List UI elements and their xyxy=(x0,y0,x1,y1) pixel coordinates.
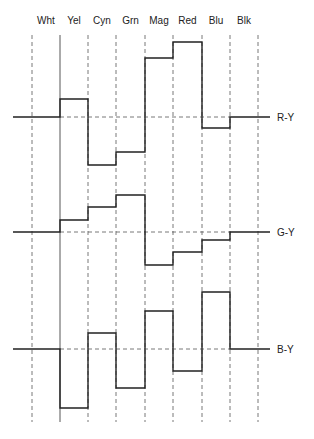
bar-label-yellow: Yel xyxy=(67,15,81,26)
signal-label-b-y: B-Y xyxy=(277,344,294,355)
bar-label-black: Blk xyxy=(237,15,251,26)
bar-label-blue: Blu xyxy=(209,15,223,26)
color-difference-waveform-diagram: Wht Yel Cyn Grn Mag Red Blu Blk R-Y G-Y … xyxy=(0,0,314,439)
waveform-canvas xyxy=(0,0,314,439)
waveform-g-y xyxy=(13,195,270,265)
bar-label-cyan: Cyn xyxy=(93,15,111,26)
signal-label-r-y: R-Y xyxy=(277,112,294,123)
signal-label-g-y: G-Y xyxy=(277,227,295,238)
waveform-b-y xyxy=(13,292,270,408)
bar-label-magenta: Mag xyxy=(149,15,168,26)
bar-label-white: Wht xyxy=(37,15,55,26)
waveform-r-y xyxy=(13,42,270,165)
bar-label-green: Grn xyxy=(122,15,139,26)
bar-label-red: Red xyxy=(178,15,196,26)
